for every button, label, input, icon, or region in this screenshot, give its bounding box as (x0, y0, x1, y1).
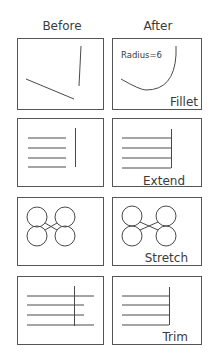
fillet-after-panel: Radius=6 Fillet (113, 39, 202, 110)
stretch-before-panel (18, 198, 104, 266)
stretch-after-panel: Stretch (113, 198, 202, 266)
fillet-label: Fillet (170, 95, 198, 109)
trim-label: Trim (161, 330, 188, 344)
edit-commands-diagram: Before After Radius=6 Fillet Extend (0, 0, 213, 364)
extend-after-panel: Extend (113, 119, 202, 189)
trim-before-panel (18, 277, 104, 345)
fillet-before-panel (18, 39, 104, 110)
radius-annotation: Radius=6 (121, 50, 162, 60)
header-before: Before (42, 19, 81, 33)
extend-before-panel (18, 119, 104, 187)
extend-label: Extend (143, 174, 185, 188)
stretch-label: Stretch (145, 251, 188, 265)
trim-after-panel: Trim (113, 277, 202, 345)
header-after: After (144, 19, 173, 33)
